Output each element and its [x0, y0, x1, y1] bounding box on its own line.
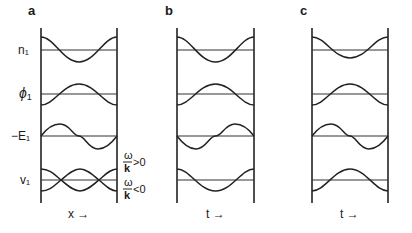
panel-b-axis-label: t →	[206, 207, 225, 221]
panel-b	[177, 28, 254, 203]
svg-text:ω: ω	[124, 176, 133, 188]
panel-c-axis-label: t →	[340, 207, 359, 221]
row-label-phi1: ϕ1	[19, 85, 32, 102]
svg-text:<0: <0	[133, 183, 146, 195]
panel-a	[41, 28, 117, 203]
svg-text:>0: >0	[133, 156, 146, 168]
svg-text:k: k	[124, 189, 131, 201]
row-label-n1: n₁	[18, 43, 29, 57]
panel-a-axis-label: x →	[68, 207, 89, 221]
omega-k-negative-annotation: ω k <0	[123, 176, 146, 201]
panel-a-letter: a	[28, 3, 36, 18]
svg-text:k: k	[124, 162, 131, 174]
panel-b-letter: b	[165, 3, 173, 18]
svg-text:ω: ω	[124, 149, 133, 161]
panel-c	[312, 28, 388, 203]
omega-k-positive-annotation: ω k >0	[123, 149, 146, 174]
row-label-v1: v₁	[20, 173, 30, 187]
wave-diagram: a b c n₁ ϕ1 −E₁ v₁ ω k >0 ω k <0 x →	[0, 0, 412, 233]
panel-c-n1-wave	[312, 37, 388, 58]
row-label-neg-e1: −E₁	[11, 129, 30, 143]
panel-c-letter: c	[300, 3, 307, 18]
